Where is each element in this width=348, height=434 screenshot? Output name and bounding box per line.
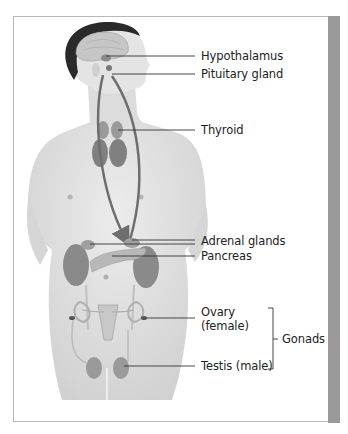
label-ovary-female: (female) <box>201 320 249 333</box>
head <box>65 22 150 94</box>
label-testis: Testis (male) <box>201 360 273 373</box>
testis-right <box>113 357 129 379</box>
nipple-left <box>68 195 73 200</box>
label-ovary: Ovary <box>201 306 235 319</box>
label-adrenal-glands: Adrenal glands <box>201 235 285 248</box>
label-pancreas: Pancreas <box>201 250 252 263</box>
testis-left <box>86 357 102 379</box>
ovary-left <box>69 316 75 320</box>
label-thyroid: Thyroid <box>201 124 243 137</box>
adrenal-left <box>81 240 95 250</box>
navel <box>104 275 109 280</box>
label-pituitary-gland: Pituitary gland <box>201 68 283 81</box>
adrenal-right <box>124 238 140 248</box>
label-gonads: Gonads <box>282 333 325 346</box>
label-hypothalamus: Hypothalamus <box>201 50 283 63</box>
pituitary-gland <box>106 65 112 71</box>
body-illustration <box>0 0 348 434</box>
